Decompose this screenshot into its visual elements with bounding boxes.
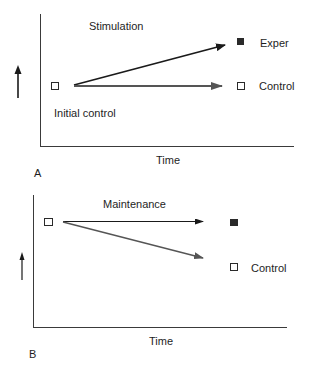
panel-b-experimental-marker <box>230 219 238 226</box>
panel-a-control-marker <box>238 83 245 90</box>
panel-a-letter: A <box>34 167 41 179</box>
panel-a <box>15 14 295 147</box>
panel-a-x-axis-label: Time <box>156 154 180 166</box>
panel-b-letter: B <box>29 348 36 360</box>
panel-a-title: Stimulation <box>89 20 143 32</box>
panel-b <box>20 195 288 328</box>
panel-a-experimental-arrow <box>74 45 225 85</box>
panel-b-title: Maintenance <box>103 198 166 210</box>
panel-b-control-label: Control <box>251 262 286 274</box>
panel-a-experimental-label: Exper <box>260 37 289 49</box>
panel-a-up-arrow-icon <box>15 65 22 98</box>
panel-b-initial-marker <box>45 219 53 226</box>
panel-b-up-arrow-icon <box>20 252 25 280</box>
panel-b-control-arrow <box>63 222 203 258</box>
panel-a-experimental-marker <box>237 38 244 45</box>
panel-b-control-marker <box>231 264 238 271</box>
panel-a-initial-marker <box>52 83 59 90</box>
panel-a-initial-label: Initial control <box>54 107 116 119</box>
panel-b-x-axis-label: Time <box>149 335 173 347</box>
diagram-canvas <box>0 0 315 376</box>
panel-a-control-label: Control <box>259 80 294 92</box>
